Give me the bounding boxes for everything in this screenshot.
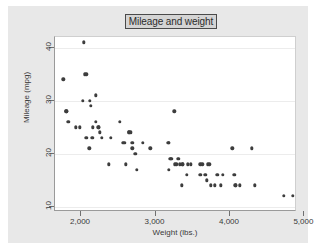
data-point [291,194,294,197]
x-tick-label-5000: 5,000 [293,217,313,226]
y-tick-label-30: 30 [44,92,53,106]
data-point [253,184,256,187]
data-point [134,152,137,155]
gridline-y-20 [55,154,295,155]
y-tick-label-10: 10 [44,198,53,212]
data-point [185,173,188,176]
y-tick-label-40: 40 [44,39,53,53]
gridline-y-10 [55,207,295,208]
y-axis-title: Mileage (mpg) [22,72,31,123]
data-point [118,120,121,123]
data-point [64,110,67,113]
data-point [177,157,180,160]
data-point [124,163,127,166]
chart-title-box: Mileage and weight [125,14,217,29]
data-point [219,184,222,187]
data-point [85,72,88,75]
plot-region [54,36,296,211]
data-point [167,168,170,171]
data-point [94,94,97,97]
data-point [109,136,112,139]
y-tick-label-20: 20 [44,145,53,159]
x-axis-title: Weight (lbs.) [54,228,296,237]
x-tick-4000 [229,211,230,216]
data-point [213,184,216,187]
gridline-y-40 [55,48,295,49]
data-point [198,173,201,176]
data-point [172,110,175,113]
screenshot-root: Mileage and weight Mileage (mpg) Weight … [0,0,316,249]
data-point [131,141,134,144]
data-point [180,184,183,187]
data-point [149,147,152,150]
x-tick-label-3000: 3,000 [145,217,165,226]
data-point [89,104,92,107]
data-point [61,78,64,81]
data-point [91,136,94,139]
data-point [97,125,100,128]
data-point [189,163,192,166]
data-point [201,163,204,166]
data-point [209,184,212,187]
data-point [204,173,207,176]
data-point [167,141,170,144]
data-point [88,147,91,150]
data-point [207,163,210,166]
data-point [88,99,91,102]
x-tick-label-4000: 4,000 [219,217,239,226]
data-point [181,163,184,166]
x-tick-3000 [155,211,156,216]
data-point [141,141,144,144]
data-point [216,173,219,176]
data-point [131,147,134,150]
data-point [238,184,241,187]
plot-inner [55,37,295,210]
chart-title: Mileage and weight [129,17,213,27]
data-point [98,131,101,134]
data-point [107,163,110,166]
data-point [85,136,88,139]
data-point [205,178,208,181]
data-point [67,120,70,123]
data-point [91,125,94,128]
data-point [81,99,84,102]
data-point [94,120,97,123]
x-tick-5000 [303,211,304,216]
x-tick-2000 [80,211,81,216]
data-point [233,173,236,176]
data-point [100,136,103,139]
data-point [169,157,172,160]
stata-graph-region: Mileage and weight Mileage (mpg) Weight … [8,6,308,243]
data-point [82,41,85,44]
data-point [250,147,253,150]
data-point [129,131,132,134]
data-point [78,125,81,128]
x-tick-label-2000: 2,000 [70,217,90,226]
data-point [221,173,224,176]
data-point [123,141,126,144]
data-point [135,168,138,171]
data-point [231,147,234,150]
data-point [282,194,285,197]
